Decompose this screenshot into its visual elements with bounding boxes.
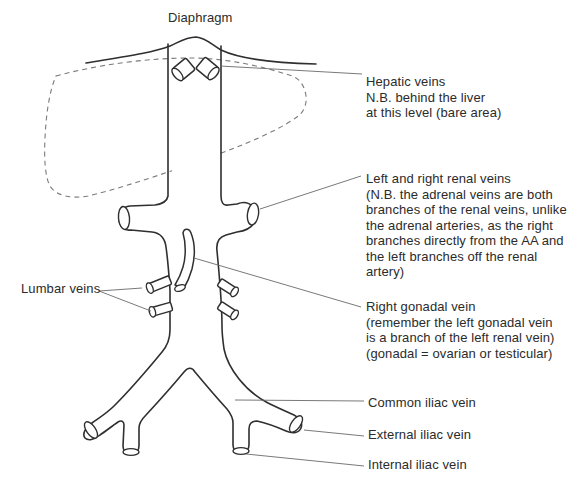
left-internal-iliac-opening <box>123 449 139 456</box>
leader-renal <box>260 176 361 209</box>
right-external-iliac-opening <box>287 414 305 435</box>
leader-internal-iliac <box>246 454 364 466</box>
leader-lumbar-upper <box>99 288 142 291</box>
lumbar-vein-right-lower <box>217 301 240 321</box>
renal-veins-label: Left and right renal veins (N.B. the adr… <box>366 171 567 280</box>
diaphragm-curve <box>86 37 316 64</box>
leader-external-iliac <box>304 430 364 436</box>
leader-hepatic <box>220 66 362 74</box>
right-internal-iliac-opening <box>233 448 249 455</box>
ivc-mask <box>172 125 219 195</box>
hepatic-vein-right <box>196 57 222 82</box>
lumbar-vein-left-upper <box>145 275 172 295</box>
leader-common-iliac <box>235 400 364 401</box>
hepatic-veins-label: Hepatic veins N.B. behind the liver at t… <box>366 74 501 121</box>
right-gonadal-vein <box>175 229 194 288</box>
anatomy-diagram: Diaphragm Hepatic veins N.B. behind the … <box>0 0 577 495</box>
diaphragm-label: Diaphragm <box>168 10 233 26</box>
right-renal-vein-opening <box>246 202 260 225</box>
hepatic-vein-left <box>170 58 196 83</box>
left-renal-vein-opening <box>118 206 131 230</box>
external-iliac-vein-label: External iliac vein <box>368 427 471 443</box>
internal-iliac-vein-label: Internal iliac vein <box>368 457 467 473</box>
lumbar-veins-label: Lumbar veins <box>21 281 100 297</box>
common-iliac-vein-label: Common iliac vein <box>368 395 476 411</box>
leader-lumbar-lower <box>99 291 151 311</box>
gonadal-vein-label: Right gonadal vein (remember the left go… <box>366 299 555 361</box>
